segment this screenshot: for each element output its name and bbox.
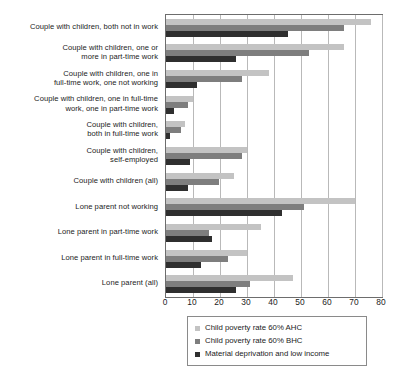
legend-label: Material deprivation and low income	[205, 349, 329, 359]
legend-item[interactable]: Child poverty rate 60% BHC	[195, 335, 360, 347]
bar-group	[166, 198, 382, 216]
legend-swatch-icon	[195, 339, 200, 344]
plot-area	[165, 14, 383, 298]
category-axis-labels: Couple with children, both not in workCo…	[0, 14, 162, 296]
bar-group	[166, 224, 382, 242]
legend-item[interactable]: Material deprivation and low income	[195, 348, 360, 360]
x-tick-label: 0	[163, 297, 168, 308]
x-tick-label: 10	[187, 297, 196, 308]
category-label: Lone parent not working	[0, 202, 158, 211]
bar	[166, 159, 190, 165]
category-label-line: Couple with children, one in	[63, 69, 158, 78]
bar-group	[166, 44, 382, 62]
bar-group	[166, 19, 382, 37]
bar	[166, 262, 201, 268]
x-tick-label: 20	[214, 297, 223, 308]
category-label: Couple with children, one in full-timewo…	[0, 94, 158, 113]
legend-swatch-icon	[195, 352, 200, 357]
x-tick-label: 70	[349, 297, 358, 308]
category-label-line: Couple with children, both not in work	[30, 22, 158, 31]
category-label: Couple with children, one infull-time wo…	[0, 69, 158, 88]
bar	[166, 31, 288, 37]
bar-group	[166, 96, 382, 114]
category-label: Couple with children (all)	[0, 176, 158, 185]
category-label: Couple with children,both in full-time w…	[0, 120, 158, 139]
x-axis-tick-labels: 01020304050607080	[165, 297, 381, 311]
x-tick-label: 60	[322, 297, 331, 308]
category-label-line: Couple with children,	[86, 120, 158, 129]
category-label-line: self-employed	[110, 155, 158, 164]
legend-label: Child poverty rate 60% BHC	[205, 336, 303, 346]
category-label: Lone parent in full-time work	[0, 253, 158, 262]
x-tick-label: 50	[295, 297, 304, 308]
bar	[166, 108, 174, 114]
bar-series-container	[166, 15, 382, 297]
category-label: Couple with children, one ormore in part…	[0, 43, 158, 62]
bar	[166, 82, 197, 88]
category-label-line: Couple with children, one in full-time	[34, 94, 158, 103]
bar-group	[166, 250, 382, 268]
category-label-line: both in full-time work	[87, 129, 158, 138]
x-tick-label: 80	[376, 297, 385, 308]
category-label: Lone parent in part-time work	[0, 227, 158, 236]
bar	[166, 236, 212, 242]
bar	[166, 56, 236, 62]
category-label: Lone parent (all)	[0, 278, 158, 287]
horizontal-bar-chart: Couple with children, both not in workCo…	[0, 0, 403, 377]
category-label-line: Couple with children,	[86, 146, 158, 155]
legend-label: Child poverty rate 60% AHC	[205, 323, 302, 333]
category-label: Couple with children, both not in work	[0, 22, 158, 31]
category-label-line: Lone parent (all)	[102, 278, 158, 287]
bar-group	[166, 147, 382, 165]
bar	[166, 287, 236, 293]
category-label-line: work, one in part-time work	[65, 104, 158, 113]
category-label-line: Lone parent not working	[75, 202, 158, 211]
bar-group	[166, 173, 382, 191]
category-label-line: Couple with children (all)	[74, 176, 158, 185]
x-tick-label: 40	[268, 297, 277, 308]
gridline	[382, 15, 383, 297]
bar	[166, 210, 282, 216]
category-label-line: Lone parent in part-time work	[58, 227, 158, 236]
legend-swatch-icon	[195, 326, 200, 331]
category-label: Couple with children,self-employed	[0, 146, 158, 165]
bar	[166, 185, 188, 191]
x-tick-label: 30	[241, 297, 250, 308]
bar-group	[166, 121, 382, 139]
chart-legend: Child poverty rate 60% AHCChild poverty …	[187, 316, 367, 366]
category-label-line: Lone parent in full-time work	[61, 253, 158, 262]
category-label-line: full-time work, one not working	[54, 78, 158, 87]
category-label-line: Couple with children, one or	[62, 43, 158, 52]
bar	[166, 133, 170, 139]
bar-group	[166, 70, 382, 88]
legend-item[interactable]: Child poverty rate 60% AHC	[195, 322, 360, 334]
category-label-line: more in part-time work	[81, 52, 158, 61]
bar-group	[166, 275, 382, 293]
